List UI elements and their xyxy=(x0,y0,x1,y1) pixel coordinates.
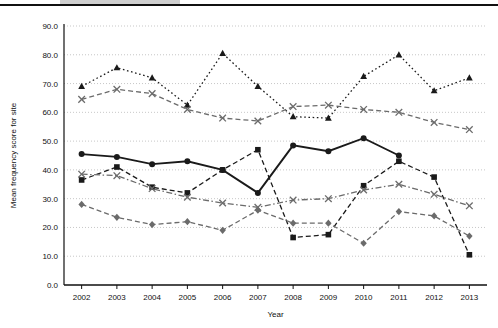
data-point xyxy=(360,240,366,247)
data-point xyxy=(466,203,473,210)
x-tick-label: 2010 xyxy=(355,293,373,302)
data-point xyxy=(254,83,261,89)
data-point xyxy=(396,208,402,215)
y-tick-label: 80.0 xyxy=(42,51,58,60)
data-point xyxy=(361,135,367,141)
y-tick-label: 90.0 xyxy=(42,22,58,31)
data-point xyxy=(466,74,473,80)
data-point xyxy=(467,252,473,258)
data-point xyxy=(325,148,331,154)
data-point xyxy=(184,218,190,225)
x-tick-label: 2005 xyxy=(178,293,196,302)
line-chart: 0.010.020.030.040.050.060.070.080.090.02… xyxy=(0,0,498,328)
series-line xyxy=(82,89,470,129)
x-tick-label: 2013 xyxy=(460,293,478,302)
data-point xyxy=(78,201,84,208)
data-point xyxy=(290,235,296,241)
data-point xyxy=(431,174,437,180)
series-line xyxy=(82,174,470,207)
data-point xyxy=(149,90,156,97)
data-point xyxy=(431,212,437,219)
data-point xyxy=(325,220,331,227)
data-point xyxy=(149,161,155,167)
data-point xyxy=(79,177,85,183)
y-tick-label: 50.0 xyxy=(42,137,58,146)
data-point xyxy=(114,172,121,179)
data-point xyxy=(79,151,85,157)
data-point xyxy=(396,153,402,159)
data-point xyxy=(114,154,120,160)
chart-screenshot: 0.010.020.030.040.050.060.070.080.090.02… xyxy=(0,0,498,328)
series-line xyxy=(82,53,470,118)
series-series-dashed-x-upper xyxy=(78,86,472,133)
y-tick-label: 30.0 xyxy=(42,195,58,204)
data-point xyxy=(396,158,402,164)
x-tick-label: 2009 xyxy=(319,293,337,302)
series-series-dashed-diamond xyxy=(78,201,472,247)
data-point xyxy=(149,74,156,80)
y-tick-label: 0.0 xyxy=(47,281,59,290)
data-point xyxy=(290,103,297,110)
y-tick-label: 10.0 xyxy=(42,252,58,261)
x-tick-label: 2002 xyxy=(73,293,91,302)
x-tick-label: 2007 xyxy=(249,293,267,302)
x-axis-title: Year xyxy=(267,310,284,319)
y-tick-label: 60.0 xyxy=(42,108,58,117)
series-series-dotted-triangle xyxy=(78,50,473,121)
series-line xyxy=(82,204,470,243)
data-point xyxy=(114,214,120,221)
data-point xyxy=(255,190,261,196)
data-point xyxy=(219,50,226,56)
data-point xyxy=(290,220,296,227)
x-tick-label: 2003 xyxy=(108,293,126,302)
y-tick-label: 40.0 xyxy=(42,166,58,175)
y-tick-label: 20.0 xyxy=(42,223,58,232)
data-point xyxy=(184,158,190,164)
data-point xyxy=(114,164,120,170)
y-tick-label: 70.0 xyxy=(42,80,58,89)
data-point xyxy=(395,51,402,57)
data-point xyxy=(290,142,296,148)
y-axis-title: Mean frequency score for site xyxy=(9,102,18,208)
chart-canvas: 0.010.020.030.040.050.060.070.080.090.02… xyxy=(0,0,498,328)
data-point xyxy=(290,113,297,119)
x-tick-label: 2004 xyxy=(143,293,161,302)
data-point xyxy=(466,126,473,133)
data-point xyxy=(466,232,472,239)
data-point xyxy=(255,147,261,153)
data-point xyxy=(431,191,438,198)
data-point xyxy=(360,73,367,79)
series-series-dashed-square xyxy=(79,147,472,258)
data-point xyxy=(113,64,120,70)
series-series-dashdot-x-lower xyxy=(78,171,472,211)
x-tick-label: 2012 xyxy=(425,293,443,302)
series-line xyxy=(82,150,470,255)
series-line xyxy=(82,138,399,193)
x-tick-label: 2006 xyxy=(214,293,232,302)
series-series-solid-circle xyxy=(79,135,402,196)
data-point xyxy=(220,167,226,173)
x-tick-label: 2011 xyxy=(390,293,408,302)
data-point xyxy=(326,232,332,238)
x-tick-label: 2008 xyxy=(284,293,302,302)
